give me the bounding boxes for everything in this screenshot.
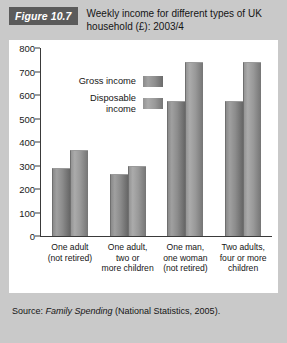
chart-panel: 0100200300400500600700800 One adult(not …: [9, 40, 278, 293]
legend-label-disposable-line2: income: [106, 104, 136, 114]
y-axis-tick-label: 700: [19, 66, 35, 77]
bar-gross-income: [225, 101, 243, 236]
y-axis-tick-mark: [35, 95, 40, 96]
figure-source: Source: Family Spending (National Statis…: [9, 306, 278, 316]
x-axis-line: [40, 236, 272, 237]
y-axis-tick-mark: [35, 189, 40, 190]
y-axis-tick-label: 300: [19, 160, 35, 171]
y-axis-tick-mark: [35, 236, 40, 237]
legend-item-gross-income: Gross income: [51, 76, 163, 87]
bar-disposable-income: [70, 150, 88, 236]
y-axis-tick-label: 600: [19, 90, 35, 101]
y-axis-tick-mark: [35, 71, 40, 72]
x-axis-category-label: One man,one woman(not retired): [157, 239, 215, 289]
bar-gross-income: [110, 174, 128, 236]
chart-legend: Gross income Disposable income: [51, 76, 163, 121]
y-axis-tick-mark: [35, 48, 40, 49]
y-axis-tick-mark: [35, 118, 40, 119]
source-publication: Family Spending: [46, 306, 113, 316]
legend-label-disposable-income: Disposable income: [90, 93, 136, 115]
bar-gross-income: [167, 101, 185, 236]
y-axis-tick-mark: [35, 212, 40, 213]
y-axis-tick-mark: [35, 142, 40, 143]
bar-group: [157, 48, 215, 236]
bar-disposable-income: [128, 166, 146, 236]
source-suffix: (National Statistics, 2005).: [113, 306, 221, 316]
y-axis-labels: 0100200300400500600700800: [9, 40, 39, 293]
legend-item-disposable-income: Disposable income: [51, 93, 163, 115]
figure-container: Figure 10.7 Weekly income for different …: [0, 0, 287, 343]
figure-header: Figure 10.7 Weekly income for different …: [9, 7, 278, 33]
plot-wrapper: 0100200300400500600700800 One adult(not …: [9, 40, 278, 293]
y-axis-tick-mark: [35, 165, 40, 166]
y-axis-tick-label: 800: [19, 43, 35, 54]
x-axis-category-label: One adult,two ormore children: [99, 239, 157, 289]
source-prefix: Source:: [12, 306, 46, 316]
figure-number-badge: Figure 10.7: [9, 7, 78, 25]
y-axis-tick-label: 200: [19, 184, 35, 195]
bar-disposable-income: [185, 62, 203, 236]
figure-title: Weekly income for different types of UK …: [87, 7, 278, 33]
bar-group: [214, 48, 272, 236]
bar-disposable-income: [243, 62, 261, 236]
legend-swatch-disposable-income: [143, 98, 163, 109]
x-axis-category-label: One adult(not retired): [41, 239, 99, 289]
bar-gross-income: [52, 168, 70, 236]
y-axis-tick-label: 500: [19, 113, 35, 124]
x-axis-labels: One adult(not retired)One adult,two ormo…: [41, 239, 272, 289]
y-axis-tick-label: 100: [19, 207, 35, 218]
x-axis-category-label: Two adults,four or morechildren: [214, 239, 272, 289]
legend-swatch-gross-income: [143, 76, 163, 87]
legend-label-disposable-line1: Disposable: [90, 93, 136, 103]
y-axis-tick-label: 400: [19, 137, 35, 148]
legend-label-gross-income: Gross income: [79, 76, 136, 87]
